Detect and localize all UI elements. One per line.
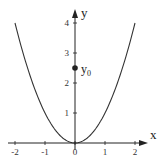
y-tick-label: 2 [65, 78, 70, 88]
x-tick-label: -2 [11, 147, 19, 157]
y0-point [72, 65, 78, 71]
y-axis-arrow-icon [72, 9, 78, 18]
y-axis-label: y [81, 5, 88, 20]
y-tick-label: 3 [65, 48, 70, 58]
y-tick-label: 1 [65, 108, 70, 118]
x-tick-label: 1 [103, 147, 108, 157]
x-tick-label: -1 [41, 147, 49, 157]
x-tick-label: 2 [133, 147, 138, 157]
x-axis-arrow-icon [139, 140, 148, 146]
parabola-chart: x y -2-1012 1234 y0 [0, 0, 163, 164]
x-tick-label: 0 [73, 147, 78, 157]
y0-label: y0 [81, 62, 91, 78]
x-axis-label: x [150, 127, 157, 142]
y-tick-label: 4 [65, 18, 70, 28]
